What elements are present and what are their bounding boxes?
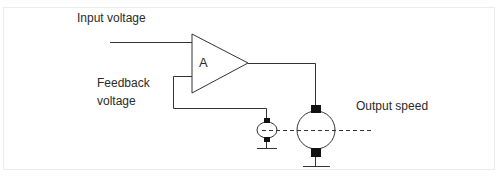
control-loop-diagram: A (0, 0, 500, 178)
amplifier-label: A (199, 55, 208, 70)
tacho-bottom-terminal-icon (264, 137, 270, 142)
feedback-wire (174, 77, 267, 120)
motor-icon (297, 111, 335, 149)
motor-bottom-terminal-icon (311, 148, 321, 157)
amplifier-output-wire (248, 64, 316, 107)
tachogenerator-icon (257, 122, 277, 138)
tacho-top-terminal-icon (264, 118, 270, 123)
motor-top-terminal-icon (311, 105, 321, 113)
